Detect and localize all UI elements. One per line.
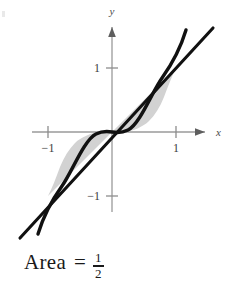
y-axis-arrowhead: [108, 27, 116, 37]
xtick-label-minus-1: −1: [42, 141, 55, 155]
shaded-region-quadrant-3: [48, 132, 112, 196]
x-axis-arrowhead: [195, 128, 205, 136]
xtick-label-plus-1: 1: [173, 141, 179, 155]
caption-fraction: 1 2: [93, 251, 104, 280]
y-axis-label: y: [109, 5, 115, 17]
ytick-label-minus-1: −1: [87, 189, 100, 203]
area-between-curves-figure: −1 1 1 −1 y x: [0, 0, 236, 281]
caption-label: Area: [24, 252, 66, 273]
caption: Area = 1 2: [24, 248, 104, 277]
y-axis: [108, 27, 116, 212]
scan-artifact: [2, 11, 5, 17]
x-axis-label: x: [215, 126, 221, 138]
fraction-denominator: 2: [93, 267, 104, 280]
fraction-numerator: 1: [93, 251, 104, 264]
ytick-label-plus-1: 1: [94, 61, 100, 75]
caption-equals: =: [74, 252, 86, 273]
